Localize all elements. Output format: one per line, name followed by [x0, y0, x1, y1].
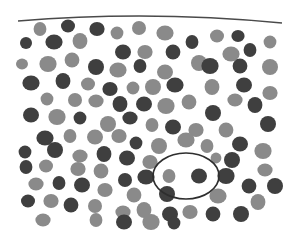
dark-particle [248, 97, 263, 113]
dark-particle [201, 58, 218, 74]
light-particle [35, 214, 50, 227]
dark-particle [21, 195, 35, 208]
light-particle [111, 129, 126, 143]
light-particle [87, 130, 103, 145]
light-particle [48, 109, 65, 125]
dark-particle [119, 151, 135, 166]
dark-particle [233, 59, 248, 74]
dark-particle [47, 142, 63, 158]
light-particle [88, 95, 103, 108]
dark-particle [64, 198, 79, 213]
light-particle [88, 199, 102, 213]
dark-particle [232, 137, 248, 152]
light-particle [109, 63, 126, 78]
dark-particle [206, 207, 221, 222]
light-particle [222, 47, 239, 62]
light-particle [127, 82, 140, 95]
dark-particle [242, 179, 257, 194]
dark-particle [231, 30, 244, 42]
dark-particle [260, 116, 276, 132]
light-particle [39, 56, 56, 72]
dark-particle [53, 176, 66, 190]
light-particle [43, 194, 58, 208]
light-particle [146, 118, 159, 132]
light-particle [90, 213, 103, 227]
light-particle [201, 139, 214, 153]
light-particle [39, 160, 53, 173]
light-particle [65, 53, 80, 68]
dark-particle [115, 45, 131, 60]
dark-particle [74, 178, 90, 193]
light-particle [227, 94, 242, 107]
dark-particle [166, 78, 183, 93]
light-particle [254, 143, 271, 159]
light-particle [142, 214, 159, 230]
light-particle [151, 138, 167, 154]
light-particle [97, 183, 112, 197]
light-particle [100, 116, 116, 132]
light-particle [262, 86, 277, 100]
dark-particle [236, 78, 252, 93]
dark-particle [134, 59, 147, 73]
light-particle [127, 188, 142, 203]
light-particle [16, 59, 28, 70]
light-particle [28, 178, 43, 191]
light-particle [72, 150, 87, 163]
dark-particle [74, 112, 87, 125]
light-particle [111, 27, 124, 40]
light-particle [210, 30, 224, 43]
dark-particle [122, 112, 137, 125]
light-particle [182, 205, 197, 219]
light-particle [251, 194, 266, 210]
dark-particle [205, 105, 221, 121]
dark-particle [217, 168, 234, 184]
light-particle [81, 78, 95, 91]
light-particle [205, 79, 220, 95]
dark-particle [45, 35, 62, 50]
dark-particle [186, 35, 199, 49]
dark-particle [267, 178, 283, 194]
light-particle [156, 26, 173, 41]
dark-particle [61, 20, 75, 33]
dark-particle [56, 73, 71, 89]
light-particle [177, 133, 194, 148]
light-particle [157, 65, 173, 80]
dark-particle [136, 97, 152, 112]
dark-particle [102, 82, 117, 96]
light-particle [41, 93, 54, 106]
dark-particle [88, 59, 104, 75]
light-particle [163, 169, 176, 183]
dark-particle [23, 108, 39, 123]
dark-particle [97, 146, 112, 162]
light-particle [157, 98, 174, 114]
light-particle [73, 33, 88, 49]
light-particle [182, 95, 197, 110]
dark-particle [244, 43, 257, 57]
dark-particle [116, 215, 132, 230]
dark-particle [191, 169, 207, 184]
dark-particle [89, 22, 104, 36]
dark-particle [137, 170, 154, 185]
dark-particle [165, 120, 181, 135]
light-particle [145, 79, 161, 95]
dark-particle [168, 217, 181, 230]
light-particle [132, 21, 146, 35]
light-particle [262, 59, 278, 75]
dark-particle [20, 160, 33, 174]
dark-particle [20, 37, 32, 49]
dark-particle [19, 146, 32, 159]
particle-mixture-diagram [0, 0, 303, 248]
dark-particle [130, 137, 143, 150]
dark-particle [113, 96, 128, 112]
light-particle [34, 22, 47, 36]
light-particle [70, 162, 85, 176]
light-particle [257, 164, 272, 177]
dark-particle [224, 152, 240, 168]
light-particle [137, 45, 152, 59]
light-particle [219, 123, 234, 138]
light-particle [68, 93, 82, 107]
dark-particle [22, 76, 39, 91]
dark-particle [166, 45, 181, 60]
dark-particle [233, 206, 249, 222]
light-particle [64, 129, 77, 143]
